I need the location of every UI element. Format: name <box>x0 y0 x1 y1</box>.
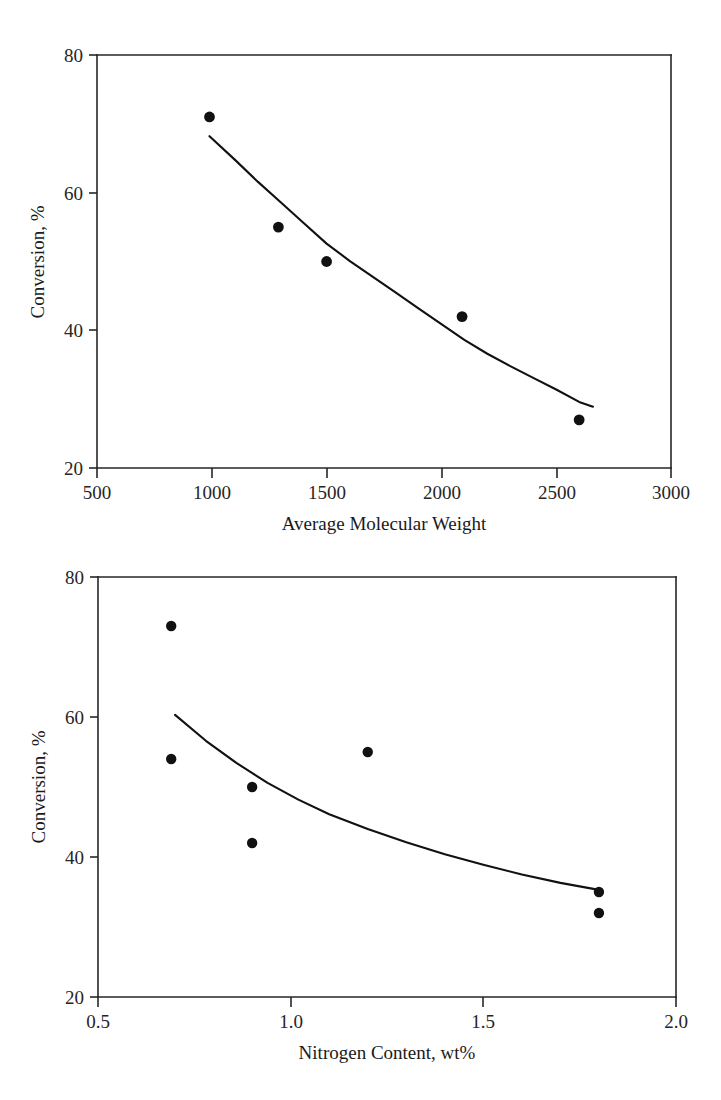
data-point <box>363 747 373 757</box>
x-axis-title-top: Average Molecular Weight <box>282 513 487 534</box>
data-point <box>594 908 604 918</box>
x-tick-label-1500: 1500 <box>308 482 346 503</box>
x-tick-label-0-5: 0.5 <box>86 1011 110 1032</box>
y-axis-title-top: Conversion, % <box>27 205 48 318</box>
x-axis-title-bottom: Nitrogen Content, wt% <box>299 1042 476 1063</box>
x-tick-label-1000: 1000 <box>193 482 231 503</box>
y-axis-title-bottom: Conversion, % <box>28 730 49 843</box>
x-tick-label-3000: 3000 <box>652 482 690 503</box>
data-point <box>273 222 284 233</box>
x-tick-label-1-0: 1.0 <box>279 1011 303 1032</box>
chart-svg-top: 80 60 40 20 500 1000 1500 2000 2500 3000… <box>0 0 721 550</box>
chart-conversion-vs-nitrogen-content: 80 60 40 20 0.5 1.0 1.5 2.0 Nitrogen Con… <box>0 550 721 1100</box>
y-tick-label-60: 60 <box>64 183 83 204</box>
y-tick-labels-bottom: 80 60 40 20 <box>65 567 84 1008</box>
x-ticks-top <box>97 468 671 478</box>
x-tick-labels-top: 500 1000 1500 2000 2500 3000 <box>83 482 690 503</box>
data-point <box>247 782 257 792</box>
plot-frame-top <box>97 55 671 468</box>
data-point <box>247 838 257 848</box>
y-ticks-top <box>89 55 97 468</box>
data-point <box>457 311 468 322</box>
series-trend-top <box>210 136 593 407</box>
y-tick-label-40: 40 <box>65 847 84 868</box>
plot-frame-bottom <box>98 577 676 997</box>
figure-page: 80 60 40 20 500 1000 1500 2000 2500 3000… <box>0 0 721 1100</box>
y-tick-label-80: 80 <box>64 45 83 66</box>
chart-svg-bottom: 80 60 40 20 0.5 1.0 1.5 2.0 Nitrogen Con… <box>0 550 721 1100</box>
y-tick-label-40: 40 <box>64 320 83 341</box>
y-tick-label-20: 20 <box>65 987 84 1008</box>
x-ticks-bottom <box>98 997 676 1007</box>
chart-conversion-vs-molecular-weight: 80 60 40 20 500 1000 1500 2000 2500 3000… <box>0 0 721 550</box>
x-tick-label-2000: 2000 <box>423 482 461 503</box>
data-point <box>321 256 332 267</box>
trend-curve-top <box>210 136 593 407</box>
data-point <box>574 414 585 425</box>
data-point <box>594 887 604 897</box>
y-tick-label-60: 60 <box>65 707 84 728</box>
x-tick-label-500: 500 <box>83 482 112 503</box>
y-tick-label-80: 80 <box>65 567 84 588</box>
series-trend-bottom <box>175 715 599 890</box>
x-tick-label-2-0: 2.0 <box>664 1011 688 1032</box>
data-point <box>204 112 215 123</box>
x-tick-label-1-5: 1.5 <box>471 1011 495 1032</box>
y-tick-label-20: 20 <box>64 458 83 479</box>
x-tick-labels-bottom: 0.5 1.0 1.5 2.0 <box>86 1011 688 1032</box>
data-point <box>166 621 176 631</box>
trend-curve-bottom <box>175 715 599 890</box>
data-point <box>166 754 176 764</box>
data-points-bottom <box>166 621 604 918</box>
y-ticks-bottom <box>90 577 98 997</box>
y-tick-labels-top: 80 60 40 20 <box>64 45 83 479</box>
x-tick-label-2500: 2500 <box>538 482 576 503</box>
data-points-top <box>204 112 584 426</box>
